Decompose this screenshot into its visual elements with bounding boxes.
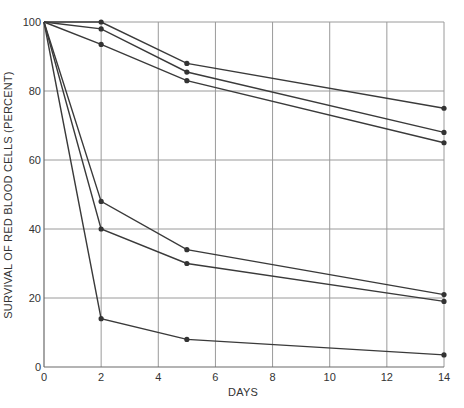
data-point-marker <box>99 42 104 47</box>
y-tick-label: 20 <box>29 292 41 304</box>
data-point-marker <box>184 261 189 266</box>
y-tick-label: 100 <box>23 16 41 28</box>
data-point-marker <box>184 69 189 74</box>
y-tick-label: 0 <box>35 361 41 373</box>
y-tick-label: 40 <box>29 223 41 235</box>
y-tick-label: 80 <box>29 85 41 97</box>
x-axis-label: DAYS <box>228 386 258 398</box>
series-line <box>44 22 444 132</box>
series-line <box>44 22 444 355</box>
data-point-marker <box>184 337 189 342</box>
x-tick-label: 10 <box>324 371 336 383</box>
data-point-marker <box>184 61 189 66</box>
data-point-marker <box>441 106 446 111</box>
data-point-marker <box>441 299 446 304</box>
data-point-marker <box>99 316 104 321</box>
x-tick-label: 6 <box>212 371 218 383</box>
data-series <box>44 19 447 357</box>
data-point-marker <box>184 247 189 252</box>
data-point-marker <box>441 140 446 145</box>
data-point-marker <box>441 352 446 357</box>
x-tick-label: 0 <box>41 371 47 383</box>
series-line <box>44 22 444 108</box>
y-tick-label: 60 <box>29 154 41 166</box>
x-tick-label: 2 <box>98 371 104 383</box>
series-line <box>44 22 444 143</box>
y-axis-label: SURVIVAL OF RED BLOOD CELLS (PERCENT) <box>2 71 14 318</box>
data-point-marker <box>99 226 104 231</box>
x-tick-label: 14 <box>438 371 450 383</box>
data-point-marker <box>184 78 189 83</box>
series-line <box>44 22 444 295</box>
x-tick-label: 4 <box>155 371 161 383</box>
data-point-marker <box>441 292 446 297</box>
data-point-marker <box>441 130 446 135</box>
data-point-marker <box>99 26 104 31</box>
x-tick-label: 8 <box>270 371 276 383</box>
data-point-marker <box>99 199 104 204</box>
tick-labels: 02468101214020406080100 <box>23 16 450 383</box>
x-tick-label: 12 <box>381 371 393 383</box>
data-point-marker <box>99 19 104 24</box>
line-chart: 02468101214020406080100 DAYS SURVIVAL OF… <box>0 0 464 408</box>
